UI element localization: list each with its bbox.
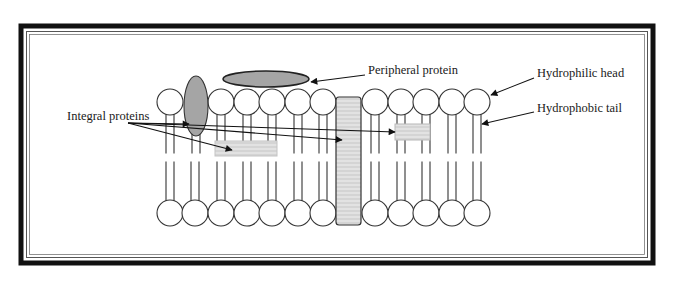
phospholipid-head-top (234, 89, 260, 115)
phospholipid-head-top (464, 89, 490, 115)
phospholipid-head-bottom (208, 200, 234, 226)
phospholipid-head-top (413, 89, 439, 115)
phospholipid-head-bottom (413, 200, 439, 226)
membrane-diagram: Peripheral protein Integral proteins Hyd… (0, 0, 675, 283)
integral-protein-embedded-right (395, 124, 430, 140)
phospholipid-head-bottom (234, 200, 260, 226)
phospholipid-head-bottom (310, 200, 336, 226)
label-peripheral-protein: Peripheral protein (368, 63, 459, 77)
arrow-peripheral (311, 75, 365, 82)
phospholipid-head-top (362, 89, 388, 115)
phospholipid-head-bottom (464, 200, 490, 226)
arrow-tail (482, 112, 534, 124)
phospholipid-head-bottom (439, 200, 465, 226)
integral-protein-transmembrane (336, 97, 361, 225)
phospholipid-head-top (388, 89, 414, 115)
integral-protein-ellipse (184, 76, 208, 136)
peripheral-protein (223, 71, 309, 87)
label-integral-proteins: Integral proteins (67, 109, 149, 123)
label-hydrophilic-head: Hydrophilic head (537, 66, 625, 80)
arrow-head (491, 78, 534, 95)
phospholipid-head-top (310, 89, 336, 115)
phospholipid-head-top (439, 89, 465, 115)
phospholipid-head-top (157, 89, 183, 115)
phospholipid-head-top (259, 89, 285, 115)
phospholipid-head-bottom (362, 200, 388, 226)
phospholipid-head-bottom (259, 200, 285, 226)
phospholipid-head-bottom (285, 200, 311, 226)
label-hydrophobic-tail: Hydrophobic tail (537, 101, 623, 115)
phospholipid-head-bottom (388, 200, 414, 226)
phospholipid-head-bottom (157, 200, 183, 226)
phospholipid-head-top (285, 89, 311, 115)
phospholipid-head-bottom (182, 200, 208, 226)
phospholipid-head-top (208, 89, 234, 115)
